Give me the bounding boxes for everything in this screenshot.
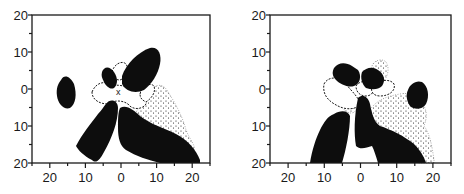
x-tick-label: 10 [149,170,163,185]
black-region [310,111,350,163]
black-region [407,81,428,108]
x-tick-label: 0 [357,170,364,185]
x-tick-label: 10 [317,170,331,185]
x-tick-label: 0 [117,170,124,185]
y-tick-label: 10 [252,45,266,60]
center-marker: x [116,87,121,97]
panel-left: x 201001020201001020 [14,8,210,185]
x-tick-label: 10 [389,170,403,185]
y-tick-label: 0 [21,82,28,97]
panel-right: 201001020201001020 [252,8,451,185]
y-tick-label: 0 [259,82,266,97]
y-tick-label: 20 [14,156,28,171]
x-tick-label: 20 [426,170,440,185]
y-tick-label: 10 [14,45,28,60]
x-tick-label: 20 [185,170,199,185]
black-region [76,101,118,162]
y-tick-label: 20 [252,156,266,171]
y-tick-label: 20 [14,8,28,23]
x-tick-label: 10 [78,170,92,185]
y-tick-label: 10 [252,119,266,134]
x-tick-label: 20 [43,170,57,185]
y-tick-label: 10 [14,119,28,134]
y-tick-label: 20 [252,8,266,23]
black-region [57,77,76,109]
figure: x 201001020201001020 201001020201001020 [0,0,464,194]
black-region [122,48,161,92]
x-tick-label: 20 [281,170,295,185]
